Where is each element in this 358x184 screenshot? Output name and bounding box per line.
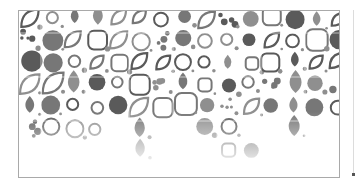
divider-line [353, 10, 354, 176]
marker-dot [352, 173, 355, 176]
decorative-pattern [19, 11, 340, 178]
pattern-image-frame [18, 10, 340, 178]
